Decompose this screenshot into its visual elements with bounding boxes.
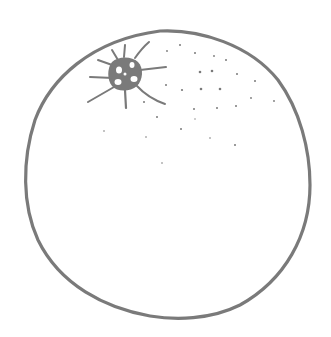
stem-calyx <box>88 42 166 108</box>
orange-outline <box>26 31 310 318</box>
orange-illustration <box>0 0 331 337</box>
orange-svg <box>0 0 331 337</box>
